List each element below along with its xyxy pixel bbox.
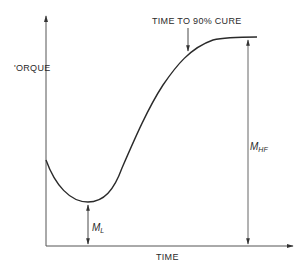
cure-curve-diagram bbox=[0, 0, 306, 267]
y-axis-label: 'ORQUE bbox=[14, 64, 51, 73]
min-torque-label: ML bbox=[92, 223, 104, 234]
max-torque-label: MHF bbox=[250, 142, 268, 153]
min-torque-label-sub: L bbox=[100, 227, 104, 234]
max-torque-label-sub: HF bbox=[258, 146, 267, 153]
x-axis-label: TIME bbox=[156, 253, 179, 262]
torque-curve bbox=[46, 37, 257, 202]
cure-90-annotation: TIME TO 90% CURE bbox=[152, 17, 242, 26]
